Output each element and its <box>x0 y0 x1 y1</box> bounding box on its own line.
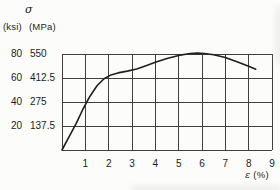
y-axis-unit-mpa: (MPa) <box>29 21 56 32</box>
x-tick: 2 <box>102 158 116 169</box>
y-tick-mpa: 137.5 <box>30 121 64 131</box>
stress-strain-chart <box>62 54 272 150</box>
grid-path <box>62 54 272 150</box>
scan-shadow-bottom <box>132 186 280 190</box>
x-tick: 6 <box>195 158 209 169</box>
grid-lines <box>62 54 272 150</box>
x-tick: 8 <box>242 158 256 169</box>
x-tick: 5 <box>172 158 186 169</box>
y-tick-mpa: 275 <box>30 97 64 107</box>
y-tick-mpa: 550 <box>30 49 64 59</box>
figure: { "figure": { "y_axis": { "symbol": "σ",… <box>0 0 280 190</box>
plot-area <box>62 54 272 150</box>
epsilon-symbol: ε <box>245 169 250 180</box>
y-axis-symbol: σ <box>25 3 33 16</box>
x-axis-label: ε (%) <box>245 169 269 180</box>
scan-shadow-right <box>276 6 280 64</box>
x-tick: 7 <box>218 158 232 169</box>
y-tick-ksi: 40 <box>2 97 22 107</box>
y-tick-mpa: 412.5 <box>30 73 64 83</box>
x-axis-unit: (%) <box>253 169 269 180</box>
x-tick: 1 <box>78 158 92 169</box>
x-tick: 3 <box>125 158 139 169</box>
y-tick-ksi: 60 <box>2 73 22 83</box>
y-tick-ksi: 20 <box>2 121 22 131</box>
x-tick: 9 <box>265 158 279 169</box>
x-tick: 4 <box>148 158 162 169</box>
y-tick-ksi: 80 <box>2 49 22 59</box>
y-axis-unit-ksi: (ksi) <box>3 21 22 32</box>
